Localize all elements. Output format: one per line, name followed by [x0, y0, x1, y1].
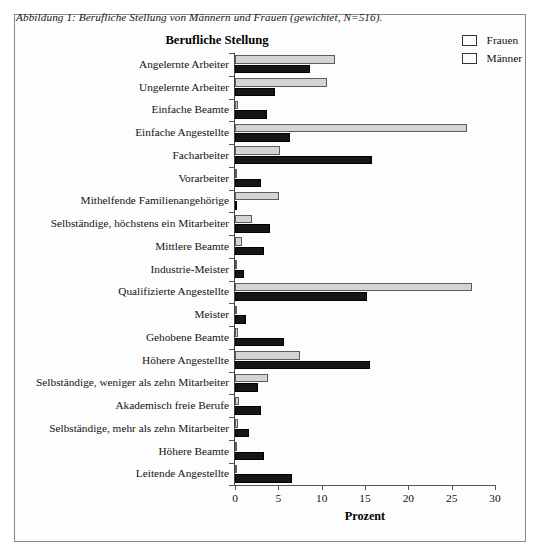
bar-maenner	[235, 247, 264, 256]
category-label: Höhere Angestellte	[0, 355, 234, 366]
category-label: Höhere Beamte	[0, 446, 234, 457]
x-axis-tick	[322, 485, 323, 490]
bar-frauen	[235, 283, 472, 292]
bar-maenner	[235, 65, 310, 74]
category-label: Akademisch freie Berufe	[0, 400, 234, 411]
category-label: Meister	[0, 309, 234, 320]
bar-maenner	[235, 474, 292, 483]
bar-maenner	[235, 383, 258, 392]
bar-maenner	[235, 110, 267, 119]
bar-maenner	[235, 452, 264, 461]
bar-maenner	[235, 315, 246, 324]
category-label: Selbständige, höchstens ein Mitarbeiter	[0, 218, 234, 229]
category-label: Angelernte Arbeiter	[0, 59, 234, 70]
x-axis-tick-label: 5	[263, 492, 293, 504]
x-axis-tick-label: 20	[393, 492, 423, 504]
category-label: Selbständige, weniger als zehn Mitarbeit…	[0, 377, 234, 388]
category-label: Selbständige, mehr als zehn Mitarbeiter	[0, 423, 234, 434]
category-label: Leitende Angestellte	[0, 468, 234, 479]
bar-frauen	[235, 351, 300, 360]
bar-maenner	[235, 156, 372, 165]
bar-frauen	[235, 442, 237, 451]
x-axis-tick-label: 10	[307, 492, 337, 504]
bar-frauen	[235, 237, 242, 246]
bar-frauen	[235, 146, 280, 155]
bar-frauen	[235, 306, 237, 315]
x-axis-tick	[235, 485, 236, 490]
bar-frauen	[235, 465, 237, 474]
bar-maenner	[235, 338, 284, 347]
x-axis-tick	[495, 485, 496, 490]
category-label: Industrie-Meister	[0, 264, 234, 275]
bar-frauen	[235, 215, 252, 224]
x-axis-tick	[408, 485, 409, 490]
category-label: Einfache Beamte	[0, 104, 234, 115]
bar-maenner	[235, 270, 244, 279]
category-label: Mithelfende Familienangehörige	[0, 195, 234, 206]
bar-frauen	[235, 419, 238, 428]
bar-frauen	[235, 78, 327, 87]
bar-maenner	[235, 429, 249, 438]
x-axis-title: Prozent	[220, 509, 510, 524]
x-axis-tick	[365, 485, 366, 490]
x-axis-tick-label: 0	[220, 492, 250, 504]
bar-frauen	[235, 169, 237, 178]
bar-maenner	[235, 201, 237, 210]
x-axis-tick-label: 15	[350, 492, 380, 504]
category-label: Ungelernte Arbeiter	[0, 82, 234, 93]
x-axis-tick	[452, 485, 453, 490]
category-label: Qualifizierte Angestellte	[0, 286, 234, 297]
bar-frauen	[235, 192, 279, 201]
category-label: Facharbeiter	[0, 150, 234, 161]
bar-maenner	[235, 88, 275, 97]
category-label: Einfache Angestellte	[0, 127, 234, 138]
bar-maenner	[235, 224, 270, 233]
bar-maenner	[235, 133, 290, 142]
x-axis-tick	[278, 485, 279, 490]
bar-frauen	[235, 101, 238, 110]
bar-frauen	[235, 55, 335, 64]
bar-maenner	[235, 361, 370, 370]
bar-maenner	[235, 179, 261, 188]
bar-maenner	[235, 406, 261, 415]
x-axis-tick-label: 30	[480, 492, 510, 504]
bar-frauen	[235, 124, 467, 133]
bar-frauen	[235, 374, 268, 383]
x-axis-tick-label: 25	[437, 492, 467, 504]
category-label: Vorarbeiter	[0, 173, 234, 184]
bar-frauen	[235, 397, 239, 406]
bar-frauen	[235, 260, 237, 269]
category-label: Gehobene Beamte	[0, 332, 234, 343]
bar-frauen	[235, 328, 238, 337]
chart-plot-area: Angelernte ArbeiterUngelernte ArbeiterEi…	[0, 0, 512, 528]
bar-maenner	[235, 292, 367, 301]
category-label: Mittlere Beamte	[0, 241, 234, 252]
